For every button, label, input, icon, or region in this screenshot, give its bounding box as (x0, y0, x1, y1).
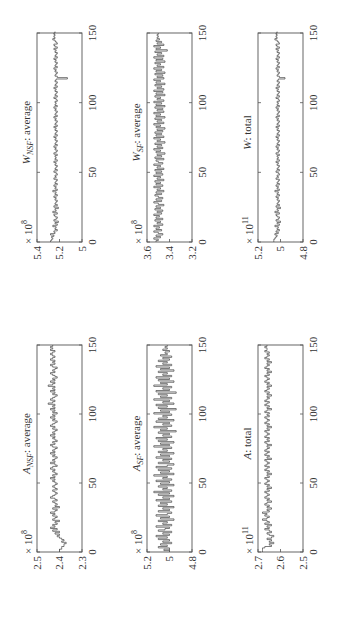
y-tick-label: 2.5 (31, 556, 43, 570)
x-tick-label: 50 (196, 477, 208, 489)
x-tick-label: 150 (86, 24, 98, 41)
y-scale-label: × 108 (20, 220, 34, 244)
step-series (274, 32, 285, 242)
chart-w-sf: 0501001503.23.43.6× 108WSF: average (130, 24, 208, 260)
y-scale-label: × 108 (130, 530, 144, 554)
x-tick-label: 0 (196, 549, 208, 555)
chart-w-total: 0501001504.855.2× 1011W: total (241, 24, 319, 260)
x-tick-label: 150 (196, 24, 208, 41)
chart-title: WNSF: average (20, 101, 35, 165)
y-scale-label: × 108 (130, 220, 144, 244)
y-tick-label: 5.2 (53, 246, 65, 260)
chart-title: A: total (241, 427, 253, 460)
chart-title: ASF: average (130, 416, 145, 473)
x-tick-label: 50 (307, 477, 319, 489)
y-tick-label: 3.6 (141, 246, 153, 260)
x-tick-label: 150 (307, 336, 319, 353)
y-tick-label: 5.2 (141, 556, 153, 570)
x-tick-label: 50 (307, 166, 319, 178)
x-tick-label: 0 (307, 239, 319, 245)
y-tick-label: 3.4 (163, 246, 175, 260)
x-tick-label: 150 (196, 336, 208, 353)
y-tick-label: 5 (274, 246, 286, 252)
y-tick-label: 5.4 (31, 246, 43, 260)
chart-a-sf: 0501001504.855.2× 108ASF: average (130, 336, 208, 570)
y-tick-label: 5 (76, 246, 88, 252)
y-tick-label: 2.5 (297, 556, 309, 570)
x-tick-label: 0 (307, 549, 319, 555)
y-tick-label: 4.8 (186, 556, 198, 570)
y-tick-label: 2.3 (76, 556, 88, 570)
step-series (263, 345, 274, 552)
rotated-figure: 0501001502.32.42.5× 108ANSF: average0501… (0, 0, 344, 620)
chart-a-nsf: 0501001502.32.42.5× 108ANSF: average (20, 336, 98, 570)
step-series (154, 33, 168, 242)
x-tick-label: 50 (86, 477, 98, 489)
chart-title: W: total (241, 115, 253, 150)
y-scale-label: × 108 (20, 530, 34, 554)
step-series (48, 345, 66, 552)
x-tick-label: 50 (86, 166, 98, 178)
x-tick-label: 100 (307, 405, 319, 422)
y-tick-label: 5 (163, 556, 175, 562)
x-tick-label: 100 (307, 94, 319, 111)
plot-frame (258, 33, 303, 242)
chart-title: ANSF: average (20, 413, 35, 475)
x-tick-label: 100 (86, 94, 98, 111)
x-tick-label: 100 (86, 405, 98, 422)
y-tick-label: 5.2 (252, 246, 264, 260)
step-series (154, 345, 176, 552)
x-tick-label: 100 (196, 405, 208, 422)
x-tick-label: 0 (196, 239, 208, 245)
y-tick-label: 3.2 (186, 246, 198, 260)
chart-a-total: 0501001502.52.62.7× 1011A: total (241, 336, 319, 570)
chart-title: WSF: average (130, 103, 145, 161)
x-tick-label: 50 (196, 166, 208, 178)
y-scale-label: × 1011 (241, 526, 255, 554)
y-tick-label: 2.4 (53, 556, 65, 570)
figure-stage: 0501001502.32.42.5× 108ANSF: average0501… (0, 0, 344, 620)
x-tick-label: 0 (86, 239, 98, 245)
x-tick-label: 150 (307, 24, 319, 41)
chart-w-nsf: 05010015055.25.4× 108WNSF: average (20, 24, 98, 260)
x-tick-label: 0 (86, 549, 98, 555)
x-tick-label: 100 (196, 94, 208, 111)
step-series (51, 32, 68, 242)
x-tick-label: 150 (86, 336, 98, 353)
y-tick-label: 2.6 (274, 556, 286, 570)
y-scale-label: × 1011 (241, 216, 255, 244)
y-tick-label: 2.7 (252, 556, 264, 570)
plot-frame (37, 33, 82, 242)
y-tick-label: 4.8 (297, 246, 309, 260)
